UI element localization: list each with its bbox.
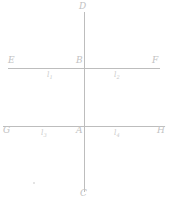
point-label-e: E (8, 56, 15, 65)
segment-label-l4-subscript: 4 (117, 132, 120, 138)
segment-label-l2-subscript: 2 (117, 74, 120, 80)
point-label-a: A (76, 126, 83, 135)
scan-artifact-speck (33, 182, 35, 184)
figure-lines (0, 0, 169, 202)
segment-label-l3-subscript: 3 (44, 132, 47, 138)
point-label-f: F (152, 56, 158, 65)
segment-label-l1: l1 (47, 71, 53, 79)
point-label-c: C (80, 189, 87, 198)
segment-label-l3: l3 (41, 129, 47, 137)
point-label-b: B (76, 56, 83, 65)
segment-label-l2: l2 (114, 71, 120, 79)
segment-label-l1-subscript: 1 (50, 74, 53, 80)
point-label-d: D (79, 2, 86, 11)
point-label-h: H (157, 126, 165, 135)
geometry-figure: D C E F B G H A l1 l2 l3 l4 (0, 0, 169, 202)
point-label-g: G (3, 126, 10, 135)
segment-label-l4: l4 (114, 129, 120, 137)
